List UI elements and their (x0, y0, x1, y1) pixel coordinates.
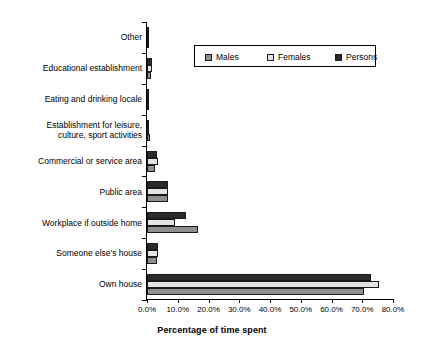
bar-persons-0 (147, 27, 149, 34)
category-label-line: Commercial or service area (0, 156, 142, 167)
bar-persons-2 (147, 89, 149, 96)
category-label-line: Educational establishment (0, 63, 142, 74)
category-label-4: Commercial or service area (0, 156, 142, 167)
bar-females-3 (147, 127, 149, 134)
bar-females-6 (147, 219, 175, 226)
bar-males-6 (147, 226, 198, 233)
x-tick-0 (147, 299, 148, 303)
bar-males-7 (147, 257, 157, 264)
category-label-line: Establishment for leisure, (0, 120, 142, 131)
bar-persons-6 (147, 212, 186, 219)
x-tick-5 (301, 299, 302, 303)
x-tick-label-8: 80.0% (373, 305, 413, 314)
bar-females-4 (147, 158, 158, 165)
bar-males-5 (147, 195, 168, 202)
category-labels: OtherEducational establishmentEating and… (0, 22, 142, 300)
x-tick-1 (178, 299, 179, 303)
category-label-line: Public area (0, 187, 142, 198)
bar-females-8 (147, 281, 379, 288)
bar-females-2 (147, 96, 149, 103)
bar-males-2 (147, 103, 149, 110)
bar-females-7 (147, 250, 158, 257)
bar-persons-3 (147, 120, 149, 127)
bar-males-4 (147, 165, 155, 172)
bar-males-0 (147, 41, 149, 48)
category-label-line: Eating and drinking locale (0, 94, 142, 105)
x-tick-3 (239, 299, 240, 303)
legend-item-females[interactable]: Females (267, 51, 311, 63)
legend-label-persons: Persons (346, 52, 377, 62)
category-label-line: culture, sport activities (0, 130, 142, 141)
bar-males-8 (147, 288, 364, 295)
category-label-line: Workplace if outside home (0, 218, 142, 229)
category-label-line: Own house (0, 279, 142, 290)
legend-item-persons[interactable]: Persons (335, 51, 377, 63)
category-label-0: Other (0, 32, 142, 43)
x-tick-2 (209, 299, 210, 303)
category-label-1: Educational establishment (0, 63, 142, 74)
x-tick-4 (270, 299, 271, 303)
legend-item-males[interactable]: Males (205, 51, 239, 63)
category-label-line: Other (0, 32, 142, 43)
legend-swatch-males-icon (205, 54, 212, 61)
bar-males-1 (147, 72, 151, 79)
bar-males-3 (147, 134, 150, 141)
category-label-6: Workplace if outside home (0, 218, 142, 229)
bar-females-1 (147, 65, 152, 72)
legend-swatch-persons-icon (335, 54, 342, 61)
bar-persons-5 (147, 181, 168, 188)
legend: Males Females Persons (194, 45, 376, 67)
category-label-3: Establishment for leisure,culture, sport… (0, 120, 142, 141)
x-tick-7 (362, 299, 363, 303)
bar-persons-8 (147, 274, 371, 281)
category-label-5: Public area (0, 187, 142, 198)
x-axis-title: Percentage of time spent (0, 325, 424, 335)
legend-swatch-females-icon (267, 54, 274, 61)
x-tick-8 (393, 299, 394, 303)
legend-label-males: Males (216, 52, 239, 62)
bar-females-5 (147, 188, 168, 195)
bar-persons-7 (147, 243, 158, 250)
category-label-8: Own house (0, 279, 142, 290)
category-label-line: Someone else's house (0, 248, 142, 259)
category-label-2: Eating and drinking locale (0, 94, 142, 105)
bar-females-0 (147, 34, 149, 41)
category-label-7: Someone else's house (0, 248, 142, 259)
bar-persons-4 (147, 151, 157, 158)
x-tick-6 (332, 299, 333, 303)
legend-label-females: Females (278, 52, 311, 62)
bar-chart: OtherEducational establishmentEating and… (0, 0, 424, 356)
bar-persons-1 (147, 58, 152, 65)
